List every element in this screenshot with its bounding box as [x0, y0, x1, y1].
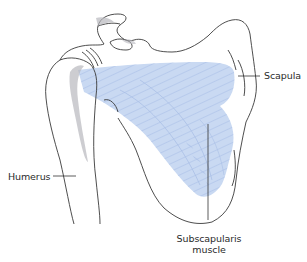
shoulder-illustration — [0, 0, 307, 262]
anatomy-diagram: Scapula Humerus Subscapularis muscle — [0, 0, 307, 262]
subscapularis-muscle — [78, 62, 234, 197]
scapula-label: Scapula — [264, 70, 301, 81]
subscapularis-label-line2: muscle — [172, 244, 246, 255]
subscapularis-label: Subscapularis muscle — [172, 233, 246, 255]
subscapularis-label-line1: Subscapularis — [172, 233, 246, 244]
humerus-label: Humerus — [8, 171, 50, 182]
